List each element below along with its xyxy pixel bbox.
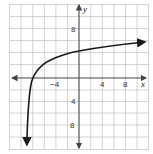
ytick-neg8: 8: [70, 121, 75, 130]
xtick-neg4: −4: [50, 80, 60, 89]
ytick-neg4: 4: [71, 97, 76, 106]
xtick-8: 8: [123, 80, 128, 89]
x-axis-label: x: [140, 79, 145, 89]
xtick-4: 4: [100, 80, 105, 89]
graph: y x −4 4 8 8 4 8: [0, 0, 153, 154]
ytick-8: 8: [71, 25, 76, 34]
y-axis-label: y: [82, 4, 87, 14]
